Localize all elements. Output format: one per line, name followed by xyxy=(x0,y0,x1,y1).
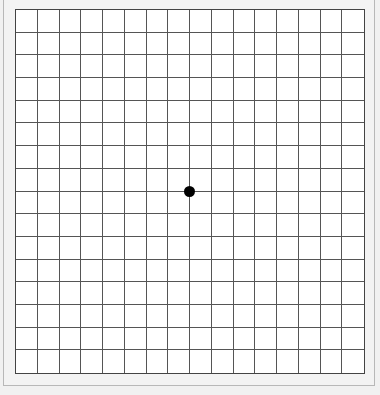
grid-cell xyxy=(38,192,60,215)
grid-cell xyxy=(103,55,125,78)
grid-cell xyxy=(16,260,38,283)
grid-cell xyxy=(168,305,190,328)
grid-cell xyxy=(255,192,277,215)
grid-cell xyxy=(103,10,125,33)
grid-cell xyxy=(342,101,364,124)
grid-cell xyxy=(81,10,103,33)
grid-cell xyxy=(342,192,364,215)
grid-cell xyxy=(38,146,60,169)
grid-cell xyxy=(255,10,277,33)
grid-cell xyxy=(212,282,234,305)
grid-cell xyxy=(234,78,256,101)
grid-cell xyxy=(103,192,125,215)
grid-cell xyxy=(277,260,299,283)
grid-cell xyxy=(342,146,364,169)
grid-cell xyxy=(38,101,60,124)
grid-cell xyxy=(168,78,190,101)
grid-cell xyxy=(38,33,60,56)
grid-cell xyxy=(38,350,60,373)
grid-cell xyxy=(299,123,321,146)
grid-cell xyxy=(103,146,125,169)
grid-cell xyxy=(38,169,60,192)
grid-cell xyxy=(321,146,343,169)
grid-cell xyxy=(38,260,60,283)
grid-cell xyxy=(299,10,321,33)
grid-cell xyxy=(342,328,364,351)
grid-cell xyxy=(234,328,256,351)
grid-cell xyxy=(234,55,256,78)
grid-cell xyxy=(255,55,277,78)
grid-cell xyxy=(212,146,234,169)
grid-cell xyxy=(81,146,103,169)
grid-cell xyxy=(212,260,234,283)
grid-cell xyxy=(190,10,212,33)
grid-cell xyxy=(125,146,147,169)
grid-cell xyxy=(342,260,364,283)
grid-cell xyxy=(16,328,38,351)
grid-cell xyxy=(299,33,321,56)
grid-cell xyxy=(212,305,234,328)
grid-cell xyxy=(168,214,190,237)
grid-cell xyxy=(168,55,190,78)
grid-cell xyxy=(16,33,38,56)
grid-cell xyxy=(321,282,343,305)
grid-cell xyxy=(16,169,38,192)
grid-cell xyxy=(125,328,147,351)
grid-cell xyxy=(190,33,212,56)
grid-cell xyxy=(125,214,147,237)
grid-cell xyxy=(190,214,212,237)
grid-cell xyxy=(190,328,212,351)
grid-cell xyxy=(81,169,103,192)
grid-cell xyxy=(190,123,212,146)
grid-cell xyxy=(60,192,82,215)
grid-cell xyxy=(342,123,364,146)
grid-cell xyxy=(125,33,147,56)
grid-cell xyxy=(81,305,103,328)
grid-cell xyxy=(321,169,343,192)
grid-cell xyxy=(234,33,256,56)
grid-cell xyxy=(147,282,169,305)
grid-cell xyxy=(81,78,103,101)
grid-cell xyxy=(60,305,82,328)
grid-cell xyxy=(277,146,299,169)
grid-cell xyxy=(212,10,234,33)
grid-cell xyxy=(125,169,147,192)
grid-cell xyxy=(38,305,60,328)
grid-cell xyxy=(342,10,364,33)
grid-cell xyxy=(234,237,256,260)
grid-cell xyxy=(321,101,343,124)
grid-cell xyxy=(321,260,343,283)
grid-cell xyxy=(168,10,190,33)
grid-cell xyxy=(168,237,190,260)
grid-cell xyxy=(277,214,299,237)
grid-cell xyxy=(16,282,38,305)
grid-cell xyxy=(190,350,212,373)
grid-cell xyxy=(234,214,256,237)
grid-cell xyxy=(255,260,277,283)
grid-cell xyxy=(342,55,364,78)
grid-cell xyxy=(81,237,103,260)
grid-cell xyxy=(255,328,277,351)
grid-cell xyxy=(234,10,256,33)
grid-cell xyxy=(299,146,321,169)
grid-cell xyxy=(60,237,82,260)
grid-cell xyxy=(16,192,38,215)
grid-cell xyxy=(81,328,103,351)
grid-cell xyxy=(60,282,82,305)
grid-cell xyxy=(255,123,277,146)
grid-cell xyxy=(234,101,256,124)
grid-cell xyxy=(277,101,299,124)
grid-cell xyxy=(168,350,190,373)
grid-cell xyxy=(103,78,125,101)
grid-cell xyxy=(212,78,234,101)
grid-cell xyxy=(299,328,321,351)
grid-cell xyxy=(125,237,147,260)
grid-cell xyxy=(168,282,190,305)
grid-cell xyxy=(103,260,125,283)
grid-cell xyxy=(299,192,321,215)
grid-cell xyxy=(234,282,256,305)
grid-cell xyxy=(60,10,82,33)
grid-cell xyxy=(103,350,125,373)
grid-cell xyxy=(60,33,82,56)
grid-cell xyxy=(81,33,103,56)
